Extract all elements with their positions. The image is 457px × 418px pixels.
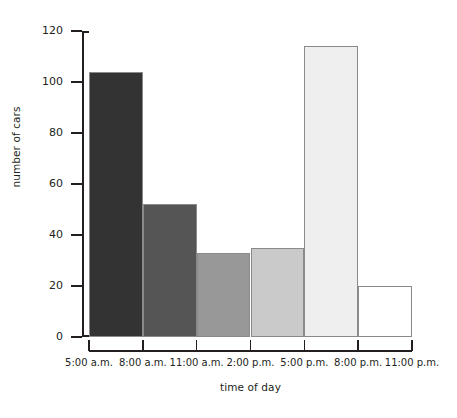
y-axis-tick [71, 30, 82, 32]
y-axis-tick [71, 234, 82, 236]
y-axis-tick-label: 60 [3, 178, 63, 189]
y-axis-tick-label: 120 [3, 25, 63, 36]
x-axis-tick [411, 340, 413, 351]
y-axis-bottom-cap [82, 335, 89, 337]
histogram-bar [197, 253, 251, 337]
y-axis-tick-label: 100 [3, 76, 63, 87]
y-axis-tick-label: 20 [3, 280, 63, 291]
histogram-bar [304, 46, 358, 337]
x-axis-tick [142, 340, 144, 351]
y-axis-tick [71, 336, 82, 338]
histogram-bar [143, 204, 197, 337]
histogram-bar [358, 286, 412, 337]
x-axis-tick [88, 340, 90, 351]
x-axis-tick [304, 340, 306, 351]
y-axis-title: number of cars [10, 87, 22, 207]
y-axis-tick-label: 80 [3, 127, 63, 138]
y-axis-tick [71, 81, 82, 83]
y-axis-tick-label: 40 [3, 229, 63, 240]
y-axis-tick-label: 0 [3, 331, 63, 342]
y-axis-tick [71, 132, 82, 134]
y-axis-line [82, 31, 84, 337]
histogram-bar [251, 248, 305, 337]
x-axis-tick [250, 340, 252, 351]
plot-area [89, 31, 412, 337]
x-axis-tick [196, 340, 198, 351]
x-axis-tick [357, 340, 359, 351]
x-axis-tick-label: 11:00 p.m. [367, 357, 457, 369]
histogram-chart: number of cars 020406080100120 5:00 a.m.… [0, 0, 457, 418]
y-axis-top-cap [82, 31, 89, 33]
y-axis-tick [71, 183, 82, 185]
y-axis-tick [71, 285, 82, 287]
x-axis-title: time of day [89, 381, 412, 393]
histogram-bar [89, 72, 143, 337]
